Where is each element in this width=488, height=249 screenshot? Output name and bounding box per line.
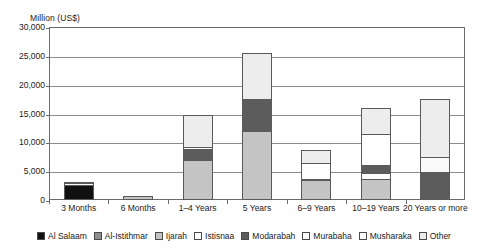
- x-axis-tick-label: 3 Months: [61, 203, 96, 213]
- x-axis-tick-label: 10–19 Years: [352, 203, 399, 213]
- bar-segment[interactable]: [242, 53, 272, 99]
- stacked-bar[interactable]: [64, 183, 94, 200]
- legend-swatch-icon: [302, 232, 310, 240]
- legend-item[interactable]: Other: [419, 232, 451, 241]
- legend-swatch-icon: [155, 232, 163, 240]
- bar-segment[interactable]: [123, 196, 153, 200]
- bar-segment[interactable]: [361, 165, 391, 172]
- bar-segment[interactable]: [301, 180, 331, 200]
- legend-item[interactable]: Al-Istithmar: [94, 232, 148, 241]
- x-axis-tick-label: 1–4 Years: [179, 203, 217, 213]
- bar-group: [346, 27, 405, 200]
- bar-segment[interactable]: [420, 99, 450, 157]
- bar-segment[interactable]: [183, 160, 213, 200]
- y-axis-tick-labels: 05,00010,00015,00020,00025,00030,000: [0, 27, 45, 200]
- legend-swatch-icon: [94, 232, 102, 240]
- bar-segment[interactable]: [242, 131, 272, 200]
- legend-item-label: Murabaha: [313, 232, 351, 241]
- legend-item-label: Al Salaam: [48, 232, 87, 241]
- y-axis-tick-label: 15,000: [19, 109, 45, 119]
- bar-segment[interactable]: [361, 108, 391, 134]
- bar-segment[interactable]: [242, 99, 272, 131]
- legend-item[interactable]: Musharaka: [359, 232, 412, 241]
- legend-swatch-icon: [241, 232, 249, 240]
- legend-item[interactable]: Ijarah: [155, 232, 187, 241]
- legend-item[interactable]: Modarabah: [241, 232, 295, 241]
- y-axis-tick-label: 10,000: [19, 137, 45, 147]
- bar-segment[interactable]: [183, 115, 213, 147]
- bar-segment[interactable]: [301, 150, 331, 162]
- legend-item[interactable]: Istisnaa: [194, 232, 234, 241]
- legend-swatch-icon: [359, 232, 367, 240]
- legend-swatch-icon: [37, 232, 45, 240]
- bar-group: [287, 27, 346, 200]
- bar-segment[interactable]: [64, 182, 94, 183]
- bar-segment[interactable]: [301, 179, 331, 181]
- bar-segment[interactable]: [301, 163, 331, 179]
- bar-group: [227, 27, 286, 200]
- chart-legend: Al SalaamAl-IstithmarIjarahIstisnaaModar…: [0, 228, 488, 244]
- bar-group: [168, 27, 227, 200]
- bar-segment[interactable]: [361, 134, 391, 166]
- legend-item-label: Musharaka: [370, 232, 412, 241]
- legend-item-label: Other: [430, 232, 451, 241]
- bar-segment[interactable]: [420, 172, 450, 200]
- legend-swatch-icon: [419, 232, 427, 240]
- bar-segment[interactable]: [420, 157, 450, 172]
- x-axis-tick-labels: 3 Months6 Months1–4 Years5 Years6–9 Year…: [49, 203, 465, 217]
- legend-item-label: Al-Istithmar: [105, 232, 148, 241]
- stacked-bar[interactable]: [242, 53, 272, 200]
- y-axis-tick-label: 0: [40, 195, 45, 205]
- legend-swatch-icon: [194, 232, 202, 240]
- y-axis-tick-label: 25,000: [19, 51, 45, 61]
- bar-segment[interactable]: [361, 173, 391, 179]
- stacked-bar[interactable]: [183, 115, 213, 200]
- bar-group: [108, 27, 167, 200]
- y-axis-tick-label: 5,000: [24, 166, 45, 176]
- x-axis-tick-label: 6 Months: [121, 203, 156, 213]
- stacked-bar[interactable]: [361, 108, 391, 200]
- legend-item[interactable]: Al Salaam: [37, 232, 87, 241]
- legend-item-label: Modarabah: [252, 232, 295, 241]
- y-axis-tick-label: 30,000: [19, 22, 45, 32]
- x-axis-tick-label: 6–9 Years: [298, 203, 336, 213]
- chart-root: Million (US$) 05,00010,00015,00020,00025…: [0, 0, 488, 249]
- bars-layer: [49, 27, 465, 200]
- legend-item[interactable]: Murabaha: [302, 232, 351, 241]
- stacked-bar[interactable]: [123, 196, 153, 200]
- x-axis-tick-label: 20 Years or more: [403, 203, 468, 213]
- y-axis-tick-label: 20,000: [19, 80, 45, 90]
- x-axis-tick-label: 5 Years: [243, 203, 271, 213]
- bar-segment[interactable]: [183, 147, 213, 149]
- legend-item-label: Istisnaa: [205, 232, 234, 241]
- bar-segment[interactable]: [64, 183, 94, 185]
- bar-segment[interactable]: [361, 179, 391, 200]
- plot-wrapper: [49, 27, 465, 200]
- bar-group: [406, 27, 465, 200]
- legend-item-label: Ijarah: [166, 232, 187, 241]
- bar-segment[interactable]: [64, 185, 94, 200]
- bar-segment[interactable]: [183, 149, 213, 160]
- bar-group: [49, 27, 108, 200]
- stacked-bar[interactable]: [420, 99, 450, 200]
- stacked-bar[interactable]: [301, 150, 331, 200]
